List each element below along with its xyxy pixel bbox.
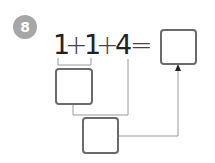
second-sum-box[interactable] [82,117,119,154]
partial-sum-box[interactable] [55,68,93,105]
result-box[interactable] [160,29,197,65]
arrow-up-icon [175,64,181,71]
bracket-connector [58,58,91,65]
